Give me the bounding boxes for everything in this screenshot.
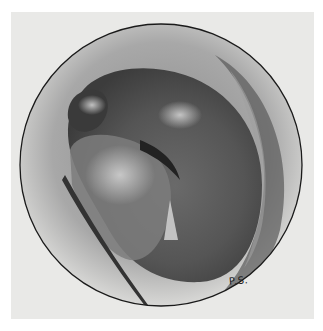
highlight-lobe <box>85 145 155 205</box>
highlight-mid <box>158 101 202 129</box>
highlight-top <box>78 95 106 115</box>
signature: P.S. <box>229 274 249 287</box>
illustration <box>0 0 323 331</box>
